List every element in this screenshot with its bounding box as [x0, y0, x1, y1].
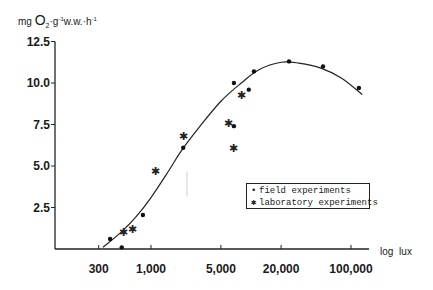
laboratory-point: ✱	[179, 130, 188, 142]
field-point	[321, 64, 325, 68]
field-point	[247, 87, 251, 91]
field-point	[181, 146, 185, 150]
laboratory-point: ✱	[151, 165, 160, 177]
axes	[51, 42, 369, 250]
field-point	[141, 213, 145, 217]
ylabel-prefix: mg	[18, 16, 32, 27]
field-point	[108, 237, 112, 241]
laboratory-point: ✱	[229, 142, 238, 154]
x-tick-label: 300	[89, 262, 109, 276]
laboratory-point: ✱	[237, 89, 246, 101]
fitted-curve	[103, 62, 363, 248]
dot-marker-icon: •	[251, 185, 259, 197]
legend-item-field: •field experiments	[251, 185, 369, 197]
data-points: ✱✱✱✱✱✱✱	[108, 59, 361, 249]
ylabel-sup2: -1	[92, 16, 97, 22]
ylabel-ww: w.w.·h	[64, 16, 92, 27]
chart-canvas: ✱✱✱✱✱✱✱	[0, 0, 433, 290]
field-point	[252, 69, 256, 73]
laboratory-point: ✱	[119, 226, 128, 238]
x-axis-label: log lux	[380, 246, 412, 257]
y-tick-label: 12.5	[12, 35, 50, 49]
laboratory-point: ✱	[128, 223, 137, 235]
y-tick-label: 10.0	[12, 76, 50, 90]
legend-label: laboratory experiments	[259, 198, 378, 208]
laboratory-point: ✱	[224, 117, 233, 129]
y-axis-label: mg O2·g-1w.w.·h-1	[18, 12, 97, 29]
legend: •field experiments ✱laboratory experimen…	[246, 183, 370, 209]
x-tick-label: 1,000	[136, 262, 166, 276]
ylabel-oxygen: O	[35, 12, 46, 28]
y-tick-label: 7.5	[12, 118, 50, 132]
x-tick-label: 100,000	[329, 262, 372, 276]
legend-item-laboratory: ✱laboratory experiments	[251, 197, 369, 209]
x-tick-label: 20,000	[263, 262, 300, 276]
field-point	[232, 81, 236, 85]
x-tick-label: 5,000	[206, 262, 236, 276]
field-point	[120, 245, 124, 249]
asterisk-marker-icon: ✱	[251, 197, 259, 209]
field-point	[357, 86, 361, 90]
fitted-curve-line	[103, 62, 363, 248]
field-point	[287, 59, 291, 63]
y-tick-label: 5.0	[12, 159, 50, 173]
y-tick-label: 2.5	[12, 201, 50, 215]
legend-label: field experiments	[259, 186, 351, 196]
